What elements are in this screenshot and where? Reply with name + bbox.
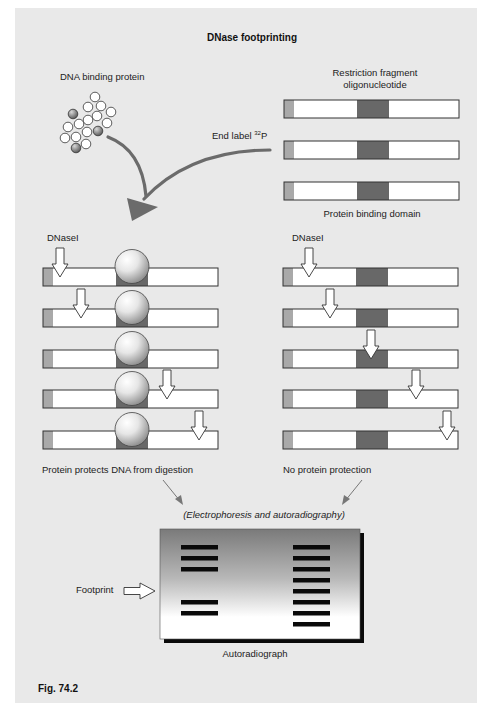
end-label-segment: [284, 141, 294, 159]
gel-band-unprotected: [293, 611, 330, 616]
gel-band-unprotected: [293, 545, 330, 550]
bound-protein-icon: [115, 413, 149, 447]
protein-bead-icon: [106, 107, 116, 117]
end-label-segment: [284, 182, 294, 200]
end-label-segment: [283, 390, 293, 408]
protein-binding-domain-label: Protein binding domain: [323, 208, 420, 219]
protected-caption: Protein protects DNA from digestion: [42, 464, 193, 475]
autoradiograph-gel: [160, 529, 364, 643]
isotope-symbol: P: [261, 130, 267, 141]
footprint-arrow-icon: [124, 583, 155, 599]
protein-bead-icon: [71, 132, 81, 142]
unprotected-lanes: [283, 248, 458, 449]
gel-band-protected: [181, 600, 218, 605]
protein-bead-icon: [90, 92, 100, 102]
protein-bead-icon: [102, 118, 112, 128]
end-label-segment: [284, 100, 294, 118]
protein-bead-icon: [82, 127, 92, 137]
gel-band-protected: [181, 611, 218, 616]
figure-number: Fig. 74.2: [38, 683, 78, 694]
end-label-segment: [43, 390, 53, 408]
gel-band-unprotected: [293, 600, 330, 605]
restriction-fragment-label: Restriction fragment: [332, 67, 417, 78]
restriction-fragment: [284, 182, 459, 200]
dnase-left-label: DNaseI: [47, 232, 79, 243]
bound-protein-icon: [115, 332, 149, 366]
binding-domain-segment: [357, 100, 389, 118]
end-label-prefix: End label: [212, 130, 254, 141]
protein-cluster-icon: [60, 92, 116, 153]
protein-bead-dark-icon: [68, 109, 78, 119]
protected-lane: [43, 370, 218, 408]
end-label-segment: [283, 309, 293, 327]
autoradiograph-caption: Autoradiograph: [223, 648, 288, 659]
gel-band-unprotected: [293, 589, 330, 594]
protein-curve: [108, 137, 146, 196]
protected-lanes: [43, 248, 218, 449]
gel-band-unprotected: [293, 556, 330, 561]
restriction-fragments: [284, 100, 459, 200]
merge-arrow-icon: [108, 137, 270, 221]
protein-bead-icon: [83, 102, 93, 112]
dna-binding-protein-label: DNA binding protein: [60, 71, 145, 82]
protein-bead-dark-icon: [71, 143, 81, 153]
binding-domain-segment: [356, 390, 388, 408]
protein-bead-icon: [92, 111, 102, 121]
method-caption: (Electrophoresis and autoradiography): [183, 509, 345, 520]
binding-domain-segment: [357, 141, 389, 159]
restriction-fragment: [284, 141, 459, 159]
end-label-segment: [283, 431, 293, 449]
end-label-segment: [283, 268, 293, 286]
oligonucleotide-label: oligonucleotide: [343, 79, 406, 90]
dnase-right-label: DNaseI: [292, 232, 324, 243]
arrowhead-icon: [127, 198, 158, 221]
gel-band-unprotected: [293, 622, 330, 627]
end-label-segment: [43, 309, 53, 327]
end-label-segment: [283, 350, 293, 368]
protected-lane: [43, 411, 218, 449]
protein-bead-icon: [81, 139, 91, 149]
end-label-text: End label 32P: [212, 130, 267, 141]
gel-band-protected: [181, 567, 218, 572]
gel-band-protected: [181, 556, 218, 561]
gel-band-unprotected: [293, 578, 330, 583]
dnase-footprinting-diagram: DNase footprinting DNA binding protein R…: [0, 0, 498, 718]
end-label-segment: [43, 268, 53, 286]
fragment-curve: [144, 150, 270, 199]
footprint-label: Footprint: [76, 584, 114, 595]
protected-lane: [43, 289, 218, 327]
bound-protein-icon: [115, 372, 149, 406]
unprotected-lane: [283, 370, 458, 408]
end-label-segment: [43, 431, 53, 449]
binding-domain-segment: [356, 309, 388, 327]
figure-title: DNase footprinting: [207, 32, 297, 43]
protein-bead-icon: [60, 133, 70, 143]
unprotected-lane: [283, 330, 458, 368]
end-label-segment: [43, 350, 53, 368]
unprotected-lane: [283, 411, 458, 449]
unprotected-caption: No protein protection: [283, 464, 371, 475]
bound-protein-icon: [115, 291, 149, 325]
protein-bead-icon: [96, 101, 106, 111]
binding-domain-segment: [357, 182, 389, 200]
protein-bead-icon: [63, 122, 73, 132]
bound-protein-icon: [115, 250, 149, 284]
binding-domain-segment: [356, 268, 388, 286]
gel-band-unprotected: [293, 567, 330, 572]
protected-lane: [43, 332, 218, 369]
protein-bead-icon: [74, 119, 84, 129]
gel-band-protected: [181, 545, 218, 550]
restriction-fragment: [284, 100, 459, 118]
protected-lane: [43, 248, 218, 286]
protein-bead-icon: [83, 115, 93, 125]
protein-bead-dark-icon: [93, 126, 103, 136]
unprotected-lane: [283, 289, 458, 327]
binding-domain-segment: [356, 431, 388, 449]
unprotected-lane: [283, 248, 458, 286]
converge-arrows: [163, 480, 362, 505]
